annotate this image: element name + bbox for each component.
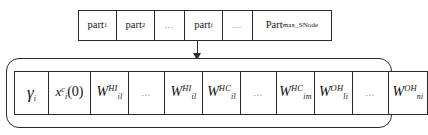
partition-cell-part-2: part2 — [117, 11, 155, 40]
gene-cell-gamma: γi — [15, 72, 49, 114]
weight-symbol: WHCim — [279, 84, 311, 101]
weight-superscript: HC — [219, 83, 231, 93]
ellipsis-glyph: … — [254, 89, 263, 98]
partition-cell-base: part — [88, 20, 104, 31]
weight-superscript: OH — [404, 83, 417, 93]
weight-symbol: WOHni — [393, 84, 424, 101]
weight-subscript: il — [118, 93, 123, 102]
partition-cell-base: part — [126, 20, 142, 31]
partition-cell-base: Part — [266, 20, 283, 31]
weight-superscript: HI — [182, 83, 191, 93]
weight-superscript: HC — [291, 83, 303, 93]
gene-cell-weight-hc-last: WHCim — [277, 72, 315, 114]
gene-cell-initial-state: xci(0) — [49, 72, 91, 114]
gamma-base: γ — [27, 83, 34, 102]
partition-array: part1 part2 … parti … Partmax_SNode — [78, 10, 332, 41]
state-argument: (0) — [67, 84, 83, 99]
weight-symbol: WHIil — [97, 84, 123, 101]
ellipsis-glyph: … — [142, 89, 151, 98]
partition-cell-subscript: i — [211, 22, 213, 29]
gene-cell-weight-hc-first: WHCil — [203, 72, 241, 114]
gene-array: γi xci(0) WHIil … WHIil WHCil … WHCim — [14, 71, 428, 115]
ellipsis-glyph: … — [164, 21, 174, 30]
weight-superscript: OH — [331, 83, 344, 93]
weight-subscript: im — [303, 93, 311, 102]
weight-subscript: ni — [417, 93, 424, 102]
weight-base: W — [97, 85, 109, 100]
partition-cell-ellipsis-2: … — [223, 11, 253, 40]
weight-base: W — [207, 85, 219, 100]
weight-subscript: il — [231, 93, 236, 102]
gene-cell-weight-hi-first: WHIil — [91, 72, 129, 114]
weight-symbol: WHCil — [207, 84, 236, 101]
weight-base: W — [393, 85, 405, 100]
partition-cell-part-i: parti — [185, 11, 223, 40]
ellipsis-glyph: … — [232, 21, 242, 30]
gene-cell-ellipsis-2: … — [241, 72, 277, 114]
partition-cell-part-max: Partmax_SNode — [253, 11, 331, 40]
gamma-subscript: i — [34, 93, 36, 102]
weight-superscript: HI — [108, 83, 117, 93]
gene-cell-weight-oh-last: WOHni — [389, 72, 427, 114]
partition-cell-subscript: 2 — [142, 22, 146, 29]
gene-cell-ellipsis-1: … — [129, 72, 165, 114]
weight-base: W — [171, 85, 183, 100]
partition-cell-subscript: max_SNode — [283, 22, 319, 29]
state-symbol: xci(0) — [56, 85, 84, 101]
ellipsis-glyph: … — [366, 89, 375, 98]
partition-cell-subscript: 1 — [104, 22, 108, 29]
weight-subscript: li — [343, 93, 348, 102]
gene-cell-weight-oh-first: WOHli — [315, 72, 353, 114]
weight-symbol: WOHli — [319, 84, 348, 101]
gene-cell-ellipsis-3: … — [353, 72, 389, 114]
weight-symbol: WHIil — [171, 84, 197, 101]
weight-subscript: il — [192, 93, 197, 102]
partition-cell-ellipsis-1: … — [155, 11, 185, 40]
gene-cell-weight-hi-last: WHIil — [165, 72, 203, 114]
gamma-symbol: γi — [27, 84, 36, 103]
partition-cell-base: part — [194, 20, 210, 31]
partition-cell-part-1: part1 — [79, 11, 117, 40]
weight-base: W — [279, 85, 291, 100]
weight-base: W — [319, 85, 331, 100]
